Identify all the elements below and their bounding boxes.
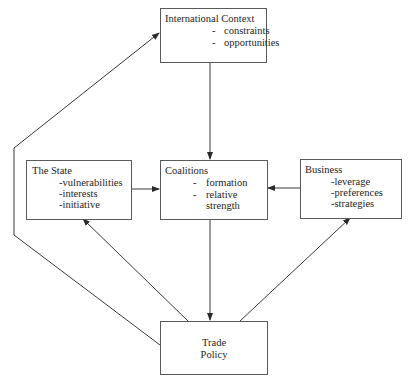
bullet-dash: - — [193, 189, 197, 201]
node-item: constraints — [224, 25, 270, 37]
edge-trade-policy-to-business — [240, 218, 350, 321]
node-title: Coalitions — [165, 165, 208, 177]
node-coalitions: Coalitions - formation - relative streng… — [160, 160, 268, 220]
node-title: The State — [32, 165, 72, 177]
node-title: International Context — [165, 13, 255, 25]
node-label-line: Policy — [161, 349, 267, 361]
bullet-dash: - — [212, 25, 216, 37]
node-business: Business -leverage -preferences -strateg… — [300, 159, 402, 219]
node-title: Business — [305, 164, 342, 176]
node-the-state: The State -vulnerabilities -interests -i… — [26, 160, 132, 220]
node-item: formation — [206, 177, 247, 189]
node-international-context: International Context - constraints - op… — [160, 8, 267, 63]
bullet-dash: - — [193, 177, 197, 189]
edge-trade-policy-to-state — [83, 219, 188, 321]
node-item: -initiative — [59, 199, 100, 211]
trade-policy-diagram: International Context - constraints - op… — [0, 0, 412, 386]
node-item: strength — [206, 200, 240, 212]
node-trade-policy: Trade Policy — [160, 321, 268, 375]
node-label-line: Trade — [161, 337, 267, 349]
node-item: -strategies — [331, 198, 374, 210]
bullet-dash: - — [212, 37, 216, 49]
node-item: opportunities — [224, 37, 279, 49]
